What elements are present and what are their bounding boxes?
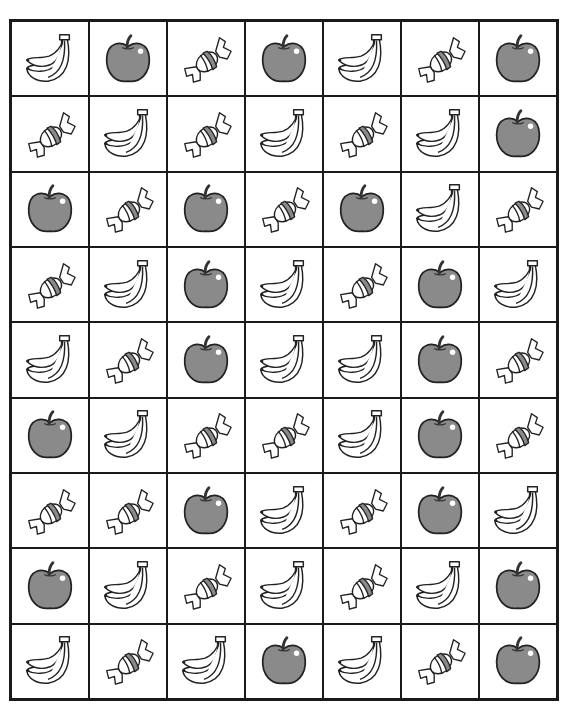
banana-icon bbox=[255, 557, 313, 615]
grid-cell-banana bbox=[480, 248, 556, 321]
banana-icon bbox=[99, 105, 157, 163]
grid-cell-apple bbox=[168, 323, 244, 396]
grid-cell-candy bbox=[90, 173, 166, 246]
grid-cell-banana bbox=[90, 549, 166, 622]
apple-icon bbox=[489, 105, 547, 163]
banana-icon bbox=[255, 105, 313, 163]
grid-cell-apple bbox=[12, 399, 88, 472]
grid-cell-banana bbox=[168, 625, 244, 698]
grid-cell-banana bbox=[12, 625, 88, 698]
banana-icon bbox=[489, 256, 547, 314]
grid-cell-banana bbox=[90, 399, 166, 472]
grid-cell-candy bbox=[402, 22, 478, 95]
apple-icon bbox=[177, 180, 235, 238]
candy-icon bbox=[99, 482, 157, 540]
grid-cell-banana bbox=[246, 248, 322, 321]
banana-icon bbox=[255, 331, 313, 389]
candy-icon bbox=[489, 406, 547, 464]
candy-icon bbox=[21, 482, 79, 540]
candy-icon bbox=[99, 632, 157, 690]
grid-cell-banana bbox=[402, 173, 478, 246]
apple-icon bbox=[21, 406, 79, 464]
grid-cell-apple bbox=[12, 549, 88, 622]
candy-icon bbox=[255, 406, 313, 464]
banana-icon bbox=[333, 406, 391, 464]
grid-cell-apple bbox=[402, 399, 478, 472]
grid-cell-banana bbox=[90, 248, 166, 321]
grid-cell-candy bbox=[246, 399, 322, 472]
banana-icon bbox=[333, 30, 391, 88]
apple-icon bbox=[99, 30, 157, 88]
grid-cell-apple bbox=[168, 248, 244, 321]
grid-cell-candy bbox=[402, 625, 478, 698]
apple-icon bbox=[411, 331, 469, 389]
grid-cell-candy bbox=[480, 173, 556, 246]
grid-cell-apple bbox=[168, 173, 244, 246]
grid-cell-apple bbox=[480, 549, 556, 622]
banana-icon bbox=[411, 105, 469, 163]
grid-cell-banana bbox=[324, 625, 400, 698]
grid-cell-candy bbox=[168, 549, 244, 622]
candy-icon bbox=[411, 632, 469, 690]
banana-icon bbox=[255, 256, 313, 314]
candy-icon bbox=[489, 180, 547, 238]
candy-icon bbox=[177, 30, 235, 88]
banana-icon bbox=[99, 406, 157, 464]
candy-icon bbox=[21, 105, 79, 163]
candy-icon bbox=[177, 406, 235, 464]
grid-cell-candy bbox=[168, 22, 244, 95]
grid-cell-banana bbox=[402, 97, 478, 170]
grid-cell-banana bbox=[324, 22, 400, 95]
apple-icon bbox=[411, 406, 469, 464]
banana-icon bbox=[99, 256, 157, 314]
grid-cell-candy bbox=[168, 97, 244, 170]
grid-cell-candy bbox=[90, 323, 166, 396]
grid-cell-candy bbox=[480, 399, 556, 472]
banana-icon bbox=[21, 632, 79, 690]
apple-icon bbox=[489, 632, 547, 690]
grid-cell-banana bbox=[402, 549, 478, 622]
grid-cell-banana bbox=[12, 323, 88, 396]
grid-cell-apple bbox=[480, 97, 556, 170]
grid-cell-candy bbox=[90, 474, 166, 547]
grid-cell-banana bbox=[246, 97, 322, 170]
apple-icon bbox=[255, 632, 313, 690]
banana-icon bbox=[177, 632, 235, 690]
candy-icon bbox=[99, 331, 157, 389]
grid-cell-apple bbox=[480, 22, 556, 95]
apple-icon bbox=[333, 180, 391, 238]
grid-cell-candy bbox=[12, 97, 88, 170]
grid-cell-banana bbox=[246, 323, 322, 396]
apple-icon bbox=[489, 557, 547, 615]
candy-icon bbox=[489, 331, 547, 389]
grid-cell-candy bbox=[168, 399, 244, 472]
candy-icon bbox=[333, 557, 391, 615]
banana-icon bbox=[411, 180, 469, 238]
grid-cell-banana bbox=[246, 549, 322, 622]
banana-icon bbox=[255, 482, 313, 540]
candy-icon bbox=[99, 180, 157, 238]
candy-icon bbox=[333, 105, 391, 163]
grid-cell-apple bbox=[402, 248, 478, 321]
apple-icon bbox=[21, 557, 79, 615]
apple-icon bbox=[21, 180, 79, 238]
grid-cell-apple bbox=[246, 22, 322, 95]
banana-icon bbox=[411, 557, 469, 615]
grid-cell-banana bbox=[246, 474, 322, 547]
grid-cell-apple bbox=[12, 173, 88, 246]
candy-icon bbox=[411, 30, 469, 88]
grid-cell-candy bbox=[90, 625, 166, 698]
candy-icon bbox=[333, 482, 391, 540]
grid-cell-candy bbox=[480, 323, 556, 396]
candy-icon bbox=[255, 180, 313, 238]
grid-cell-candy bbox=[12, 248, 88, 321]
apple-icon bbox=[177, 482, 235, 540]
picture-grid bbox=[9, 19, 559, 701]
grid-cell-banana bbox=[12, 22, 88, 95]
grid-cell-apple bbox=[246, 625, 322, 698]
candy-icon bbox=[333, 256, 391, 314]
apple-icon bbox=[411, 256, 469, 314]
grid-cell-banana bbox=[480, 474, 556, 547]
grid-cell-apple bbox=[480, 625, 556, 698]
grid-cell-banana bbox=[90, 97, 166, 170]
